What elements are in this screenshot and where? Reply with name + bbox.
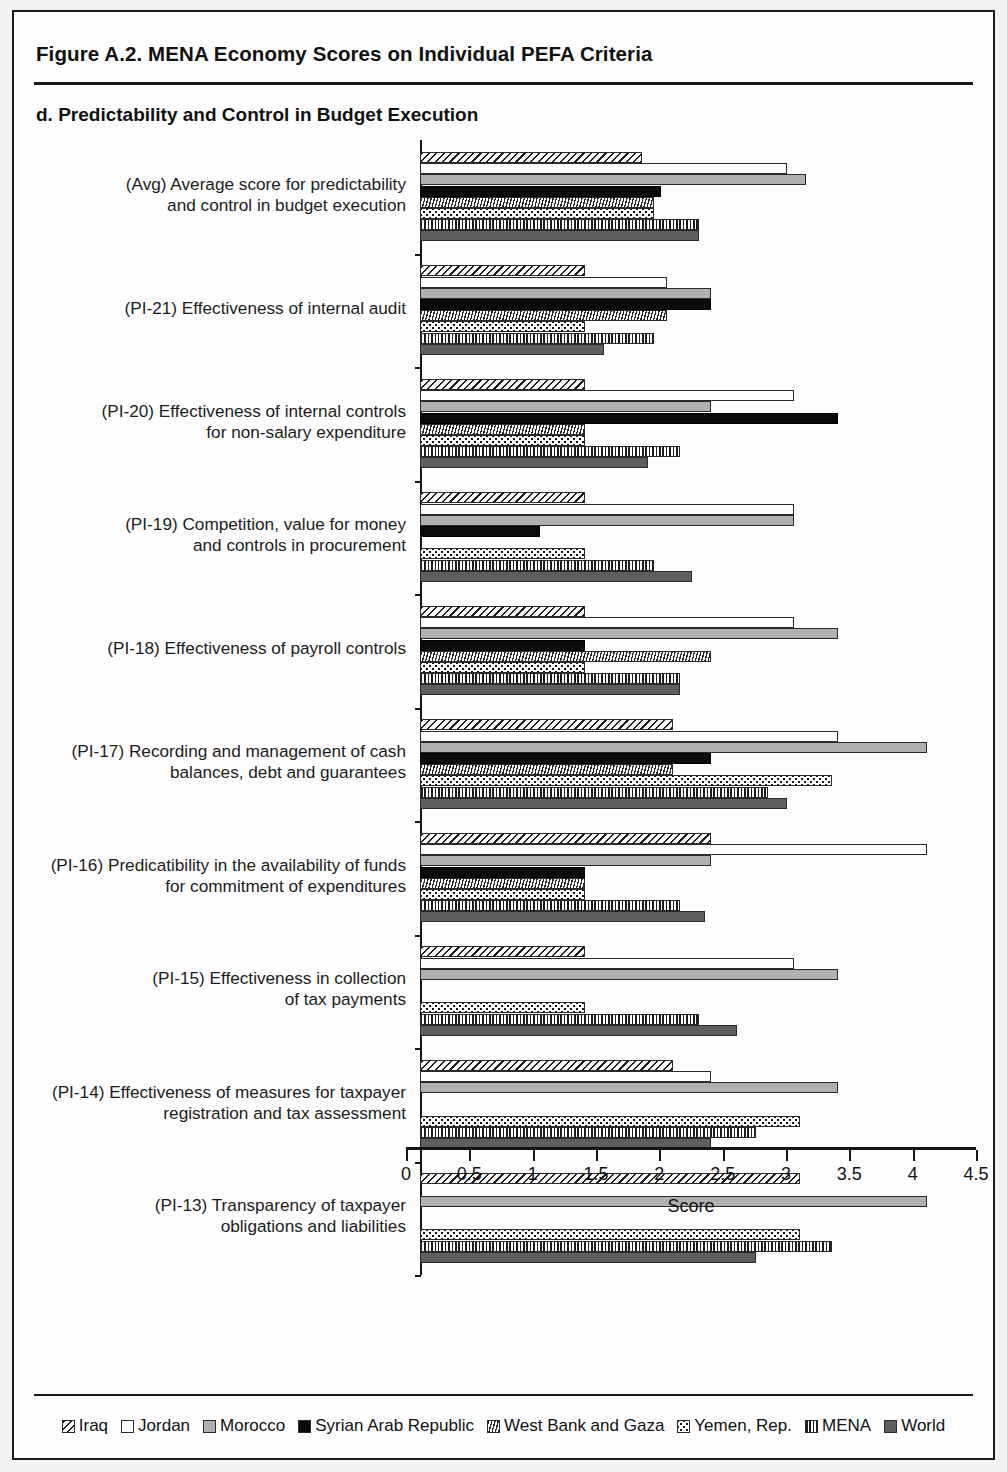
bar-morocco-5 bbox=[420, 742, 927, 753]
bar-iraq-1 bbox=[420, 265, 585, 276]
legend-divider bbox=[34, 1394, 973, 1396]
bar-west-bank-and-gaza-1 bbox=[420, 310, 667, 321]
x-tick-9 bbox=[976, 1150, 978, 1161]
bar-jordan-8 bbox=[420, 1071, 711, 1082]
bar-morocco-1 bbox=[420, 288, 711, 299]
x-tick-4 bbox=[659, 1150, 661, 1161]
x-tick-label-1: 0.5 bbox=[457, 1164, 482, 1185]
bar-mena-5 bbox=[420, 787, 768, 798]
x-tick-label-4: 2 bbox=[654, 1164, 664, 1185]
bar-jordan-6 bbox=[420, 844, 927, 855]
legend-item-world[interactable]: World bbox=[884, 1416, 945, 1436]
bar-morocco-2 bbox=[420, 401, 711, 412]
category-label-8: (PI-14) Effectiveness of measures for ta… bbox=[28, 1082, 406, 1124]
x-tick-label-9: 4.5 bbox=[963, 1164, 988, 1185]
legend-item-syrian-arab-republic[interactable]: Syrian Arab Republic bbox=[298, 1416, 474, 1436]
bar-world-2 bbox=[420, 457, 648, 468]
bar-jordan-4 bbox=[420, 617, 794, 628]
bar-morocco-4 bbox=[420, 628, 838, 639]
legend-item-morocco[interactable]: Morocco bbox=[203, 1416, 285, 1436]
legend-label-mena: MENA bbox=[822, 1416, 871, 1436]
x-tick-label-6: 3 bbox=[781, 1164, 791, 1185]
bar-yemen-rep-7 bbox=[420, 1002, 585, 1013]
category-label-0: (Avg) Average score for predictabilityan… bbox=[28, 174, 406, 216]
x-tick-2 bbox=[533, 1150, 535, 1161]
x-tick-label-5: 2.5 bbox=[710, 1164, 735, 1185]
x-tick-1 bbox=[469, 1150, 471, 1161]
legend-label-yemen-rep: Yemen, Rep. bbox=[694, 1416, 792, 1436]
bar-mena-1 bbox=[420, 333, 654, 344]
bar-iraq-0 bbox=[420, 152, 642, 163]
bar-morocco-6 bbox=[420, 855, 711, 866]
legend-label-iraq: Iraq bbox=[79, 1416, 108, 1436]
bar-group-3 bbox=[420, 481, 990, 595]
legend-item-mena[interactable]: MENA bbox=[805, 1416, 871, 1436]
figure-frame: Figure A.2. MENA Economy Scores on Indiv… bbox=[12, 10, 995, 1460]
bars-plot-area bbox=[420, 140, 990, 1275]
bar-group-8 bbox=[420, 1048, 990, 1162]
legend-item-west-bank-and-gaza[interactable]: West Bank and Gaza bbox=[487, 1416, 664, 1436]
x-tick-label-3: 1.5 bbox=[583, 1164, 608, 1185]
bar-jordan-0 bbox=[420, 163, 787, 174]
bar-world-3 bbox=[420, 571, 692, 582]
category-label-7: (PI-15) Effectiveness in collectionof ta… bbox=[28, 968, 406, 1010]
bar-mena-3 bbox=[420, 560, 654, 571]
bar-syrian-arab-republic-5 bbox=[420, 753, 711, 764]
bar-jordan-3 bbox=[420, 504, 794, 515]
bar-mena-4 bbox=[420, 673, 680, 684]
dark-gray-swatch bbox=[884, 1420, 897, 1433]
bar-group-9 bbox=[420, 1162, 990, 1276]
bar-yemen-rep-8 bbox=[420, 1116, 800, 1127]
bar-world-5 bbox=[420, 798, 787, 809]
bar-syrian-arab-republic-0 bbox=[420, 186, 661, 197]
bar-world-0 bbox=[420, 230, 699, 241]
bar-west-bank-and-gaza-2 bbox=[420, 424, 585, 435]
x-tick-label-8: 4 bbox=[908, 1164, 918, 1185]
category-tick-9 bbox=[415, 1275, 421, 1277]
bar-group-6 bbox=[420, 821, 990, 935]
chart-plot: (Avg) Average score for predictabilityan… bbox=[28, 140, 990, 1300]
x-tick-label-7: 3.5 bbox=[837, 1164, 862, 1185]
x-tick-label-0: 0 bbox=[401, 1164, 411, 1185]
bar-west-bank-and-gaza-0 bbox=[420, 197, 654, 208]
bar-morocco-3 bbox=[420, 515, 794, 526]
diagonal-hatch-swatch bbox=[62, 1420, 75, 1433]
legend-label-jordan: Jordan bbox=[138, 1416, 190, 1436]
x-tick-5 bbox=[723, 1150, 725, 1161]
category-axis-labels: (Avg) Average score for predictabilityan… bbox=[28, 140, 406, 1275]
bar-iraq-3 bbox=[420, 492, 585, 503]
bar-jordan-1 bbox=[420, 277, 667, 288]
x-axis-title: Score bbox=[406, 1196, 976, 1217]
bar-group-5 bbox=[420, 708, 990, 822]
bar-syrian-arab-republic-2 bbox=[420, 413, 838, 424]
bar-yemen-rep-4 bbox=[420, 662, 585, 673]
bar-mena-9 bbox=[420, 1241, 832, 1252]
legend-item-iraq[interactable]: Iraq bbox=[62, 1416, 108, 1436]
bar-group-2 bbox=[420, 367, 990, 481]
bar-mena-0 bbox=[420, 219, 699, 230]
bar-mena-2 bbox=[420, 446, 680, 457]
legend-item-jordan[interactable]: Jordan bbox=[121, 1416, 190, 1436]
x-axis-line bbox=[406, 1147, 976, 1150]
figure-title: Figure A.2. MENA Economy Scores on Indiv… bbox=[36, 42, 652, 66]
bar-world-4 bbox=[420, 684, 680, 695]
legend-label-syrian-arab-republic: Syrian Arab Republic bbox=[315, 1416, 474, 1436]
bar-jordan-5 bbox=[420, 731, 838, 742]
bar-syrian-arab-republic-3 bbox=[420, 526, 540, 537]
bar-group-0 bbox=[420, 140, 990, 254]
bar-morocco-8 bbox=[420, 1082, 838, 1093]
bar-syrian-arab-republic-4 bbox=[420, 640, 585, 651]
bar-mena-8 bbox=[420, 1127, 756, 1138]
legend-label-morocco: Morocco bbox=[220, 1416, 285, 1436]
dotted-swatch bbox=[677, 1420, 690, 1433]
chart-legend: IraqJordanMoroccoSyrian Arab RepublicWes… bbox=[14, 1416, 993, 1436]
bar-yemen-rep-3 bbox=[420, 548, 585, 559]
category-label-2: (PI-20) Effectiveness of internal contro… bbox=[28, 401, 406, 443]
bar-iraq-8 bbox=[420, 1060, 673, 1071]
bar-world-1 bbox=[420, 344, 604, 355]
legend-item-yemen-rep[interactable]: Yemen, Rep. bbox=[677, 1416, 792, 1436]
x-tick-6 bbox=[786, 1150, 788, 1161]
light-gray-swatch bbox=[203, 1420, 216, 1433]
white-swatch bbox=[121, 1420, 134, 1433]
bar-west-bank-and-gaza-5 bbox=[420, 764, 673, 775]
